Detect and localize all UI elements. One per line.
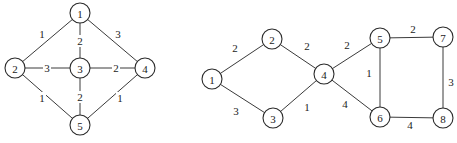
edge-4-6 bbox=[324, 74, 380, 117]
edge-weight-label: 3 bbox=[44, 62, 50, 74]
node-2: 2 bbox=[5, 58, 25, 78]
edge-weight-label: 1 bbox=[117, 92, 123, 104]
node-label: 3 bbox=[77, 63, 83, 75]
node-label: 4 bbox=[321, 69, 327, 81]
node-label: 3 bbox=[270, 113, 276, 125]
node-3: 3 bbox=[70, 58, 90, 78]
node-label: 6 bbox=[377, 112, 383, 124]
node-label: 1 bbox=[77, 8, 83, 20]
node-3: 3 bbox=[263, 108, 283, 128]
node-4: 4 bbox=[314, 64, 334, 84]
right-weighted-graph: 232124123412345678 bbox=[202, 23, 455, 131]
node-label: 1 bbox=[209, 74, 215, 86]
node-6: 6 bbox=[370, 107, 390, 127]
edge-weight-label: 3 bbox=[448, 76, 454, 88]
edge-weight-label: 2 bbox=[304, 40, 310, 52]
node-5: 5 bbox=[70, 115, 90, 135]
edge-weight-label: 1 bbox=[39, 28, 45, 40]
edge-weight-label: 1 bbox=[366, 67, 372, 79]
edge-1-3 bbox=[212, 79, 273, 118]
node-7: 7 bbox=[433, 27, 453, 47]
node-label: 7 bbox=[440, 32, 446, 44]
edge-weight-label: 4 bbox=[407, 119, 413, 131]
node-label: 2 bbox=[12, 63, 18, 75]
edge-weight-label: 2 bbox=[77, 35, 83, 47]
edge-weight-label: 2 bbox=[344, 39, 350, 51]
node-label: 2 bbox=[269, 34, 275, 46]
edge-weight-label: 2 bbox=[410, 23, 416, 35]
edge-weight-label: 4 bbox=[342, 98, 348, 110]
edge-weight-label: 1 bbox=[304, 101, 310, 113]
graph-canvas: 1233212112345 232124123412345678 bbox=[0, 0, 457, 143]
edge-weight-label: 1 bbox=[39, 92, 45, 104]
left-weighted-graph: 1233212112345 bbox=[5, 3, 155, 135]
node-5: 5 bbox=[370, 28, 390, 48]
edge-weight-label: 3 bbox=[115, 28, 121, 40]
edge-4-5 bbox=[80, 68, 145, 125]
node-4: 4 bbox=[135, 58, 155, 78]
node-8: 8 bbox=[433, 108, 453, 128]
node-label: 5 bbox=[77, 120, 83, 132]
edge-1-4 bbox=[80, 13, 145, 68]
edge-weight-label: 3 bbox=[233, 105, 239, 117]
node-1: 1 bbox=[70, 3, 90, 23]
node-1: 1 bbox=[202, 69, 222, 89]
node-label: 5 bbox=[377, 33, 383, 45]
edge-1-2 bbox=[15, 13, 80, 68]
edge-weight-label: 2 bbox=[232, 42, 238, 54]
node-label: 8 bbox=[440, 113, 446, 125]
node-2: 2 bbox=[262, 29, 282, 49]
edge-weight-label: 2 bbox=[113, 62, 119, 74]
edge-1-2 bbox=[212, 39, 272, 79]
edge-2-5 bbox=[15, 68, 80, 125]
edge-weight-label: 2 bbox=[77, 91, 83, 103]
node-label: 4 bbox=[142, 63, 148, 75]
